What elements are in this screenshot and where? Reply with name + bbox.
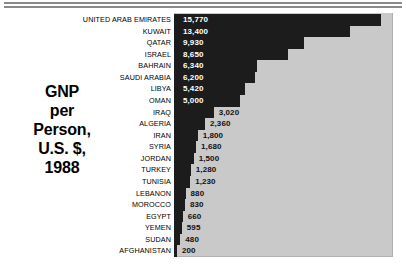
bar: [174, 245, 177, 257]
top-rule-lower: [4, 6, 402, 8]
chart-title-line-0: GNP: [6, 82, 118, 101]
country-label: AFGHANISTAN: [119, 244, 171, 258]
bar-chart-plot-area: UNITED ARAB EMIRATES15,770KUWAIT13,400QA…: [174, 13, 393, 257]
chart-title-line-2: Person,: [6, 120, 118, 139]
chart-title-line-3: U.S. $,: [6, 139, 118, 158]
bar-row: AFGHANISTAN200: [174, 244, 392, 258]
bar-value-label: 200: [182, 244, 196, 257]
chart-title-line-4: 1988: [6, 158, 118, 177]
top-rule-upper: [4, 2, 402, 4]
chart-title: GNPperPerson,U.S. $,1988: [6, 82, 118, 177]
chart-title-line-1: per: [6, 101, 118, 120]
